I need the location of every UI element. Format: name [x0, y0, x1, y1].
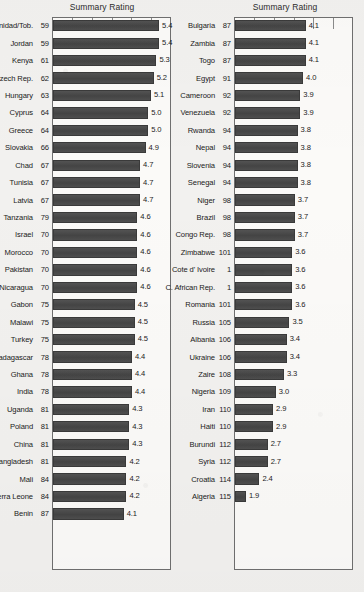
bar-rank-value: 87 — [215, 56, 231, 65]
bar-row: Congo Rep. 983.7 — [234, 226, 353, 243]
bar-row: Senegal 943.8 — [234, 174, 353, 191]
bar-row: Burundi 1122.7 — [234, 436, 353, 453]
bar-category-label: Benin 87 — [0, 509, 52, 518]
bar-rank-value: 92 — [215, 108, 231, 117]
bar-category-label: Pakistan 70 — [0, 265, 52, 274]
bar — [235, 264, 292, 275]
bar-category-label: Gabon 75 — [0, 300, 52, 309]
bar — [235, 299, 292, 310]
bar-country-name: Greece — [9, 126, 33, 135]
panel-title-right: Summary Rating — [216, 2, 354, 12]
bar-country-name: Mali — [19, 475, 33, 484]
bar-row: Cameroon 923.9 — [234, 87, 353, 104]
bar-country-name: Romania — [185, 300, 215, 309]
bar-category-label: Cyprus 64 — [0, 108, 52, 117]
bar-value-label: 3.6 — [295, 265, 305, 274]
bar-category-label: Zimbabwe 101 — [111, 248, 234, 257]
bar-row: Algeria 1151.9 — [234, 488, 353, 505]
bar-value-label: 4.1 — [309, 38, 319, 47]
bar-rank-value: 81 — [33, 422, 49, 431]
bar — [235, 351, 287, 362]
bar-country-name: Chad — [15, 161, 33, 170]
bar-value-label: 3.6 — [295, 300, 305, 309]
bar-rank-value: 110 — [215, 405, 231, 414]
bar-row: Zimbabwe 1013.6 — [234, 244, 353, 261]
bar-country-name: Nigeria — [192, 387, 215, 396]
bar-category-label: Ghana 78 — [0, 370, 52, 379]
bar-country-name: Algeria — [192, 492, 215, 501]
bar-category-label: Nepal 94 — [111, 143, 234, 152]
bar-rank-value: 81 — [33, 440, 49, 449]
bar-country-name: Uganda — [7, 405, 33, 414]
bar — [235, 247, 292, 258]
chart-panel-left: Summary Rating Trinidad/Tob. 595.4Jordan… — [0, 0, 182, 592]
bar-value-label: 3.8 — [301, 160, 311, 169]
bar-country-name: Czech Rep. — [0, 74, 33, 83]
bar-country-name: Kenya — [12, 56, 33, 65]
bar-row: Zaire 1083.3 — [234, 366, 353, 383]
bar — [235, 125, 298, 136]
bar-value-label: 4.0 — [306, 73, 316, 82]
bar-country-name: Pakistan — [5, 265, 33, 274]
bar-rank-value: 61 — [33, 56, 49, 65]
bar-country-name: Venezuela — [180, 108, 215, 117]
bar-country-name: Congo Rep. — [175, 230, 215, 239]
bar-rank-value: 108 — [215, 370, 231, 379]
bar-rank-value: 112 — [215, 457, 231, 466]
bar-row: Russia 1053.5 — [234, 313, 353, 330]
bar-country-name: Hungary — [5, 91, 33, 100]
bar — [235, 160, 298, 171]
bar-row: Egypt 914.0 — [234, 69, 353, 86]
bar-value-label: 3.6 — [295, 282, 305, 291]
bar-rank-value: 75 — [33, 300, 49, 309]
bar-row: Nepal 943.8 — [234, 139, 353, 156]
bar-rank-value: 98 — [215, 213, 231, 222]
bar-rank-value: 94 — [215, 178, 231, 187]
bar-row: Nigeria 1093.0 — [234, 383, 353, 400]
bar — [53, 508, 124, 519]
bar-rank-value: 94 — [215, 143, 231, 152]
bar-country-name: Morocco — [5, 248, 33, 257]
bar-country-name: Nepal — [196, 143, 215, 152]
bar — [235, 404, 273, 415]
bar-country-name: Trinidad/Tob. — [0, 21, 33, 30]
bar-category-label: Zambia 87 — [111, 39, 234, 48]
bar — [235, 72, 303, 83]
bar-rank-value: 64 — [33, 108, 49, 117]
bar — [235, 107, 300, 118]
bar-rank-value: 110 — [215, 422, 231, 431]
bar-rank-value: 67 — [33, 161, 49, 170]
bar-category-label: Rwanda 94 — [111, 126, 234, 135]
bar — [235, 369, 284, 380]
bar-country-name: Croatia — [191, 475, 215, 484]
bar-category-label: Bangladesh 81 — [0, 457, 52, 466]
bar-value-label: 3.8 — [301, 178, 311, 187]
bar-row: Ukraine 1063.4 — [234, 348, 353, 365]
bar-row: Slovenia 943.8 — [234, 157, 353, 174]
bar-rank-value: 87 — [33, 509, 49, 518]
bar-value-label: 3.4 — [290, 334, 300, 343]
bar-country-name: Jordan — [10, 39, 33, 48]
bar-value-label: 3.9 — [303, 90, 313, 99]
bar-country-name: China — [14, 440, 33, 449]
bar-country-name: C. African Rep. — [165, 283, 215, 292]
bar-row: Iran 1102.9 — [234, 401, 353, 418]
bar-country-name: India — [17, 387, 33, 396]
bar-value-label: 4.1 — [127, 509, 137, 518]
bar — [235, 317, 289, 328]
bar-value-label: 2.7 — [271, 457, 281, 466]
bar — [235, 456, 268, 467]
chart-panel-right: Summary Rating Bulgaria 874.1Zambia 874.… — [182, 0, 364, 592]
bar-country-name: Ukraine — [190, 353, 215, 362]
bar — [235, 282, 292, 293]
bar-row: Zambia 874.1 — [234, 34, 353, 51]
bar-rank-value: 70 — [33, 248, 49, 257]
bar-country-name: Brazil — [197, 213, 215, 222]
bar-country-name: Niger — [197, 196, 215, 205]
bar-category-label: Poland 81 — [0, 422, 52, 431]
bar-rank-value: 81 — [33, 457, 49, 466]
bar-row: Bulgaria 874.1 — [234, 17, 353, 34]
bar-value-label: 3.8 — [301, 125, 311, 134]
bar-row: Croatia 1142.4 — [234, 470, 353, 487]
bar-value-label: 4.1 — [309, 21, 319, 30]
